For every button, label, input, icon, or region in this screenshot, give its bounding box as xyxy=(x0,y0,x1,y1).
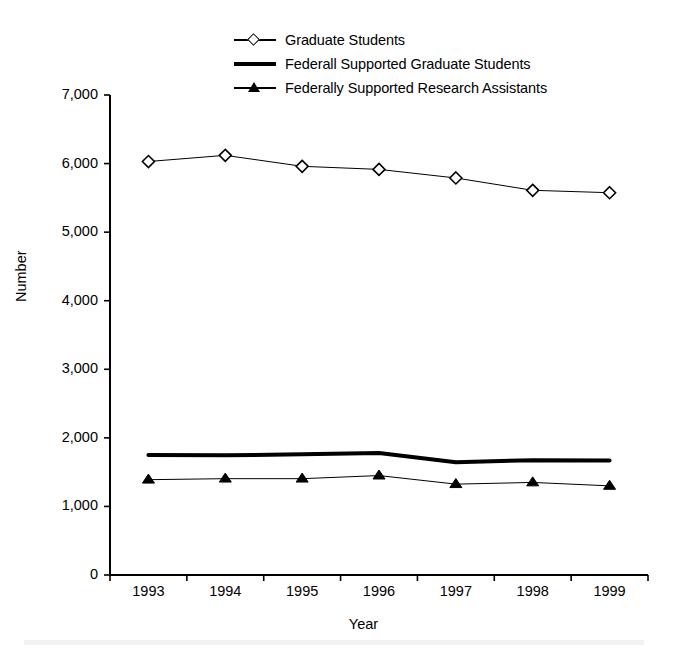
series-line-1 xyxy=(148,453,609,462)
data-point-open-diamond xyxy=(296,160,308,172)
data-point-filled-triangle xyxy=(142,474,154,483)
data-point-open-diamond xyxy=(142,156,154,168)
line-chart: Graduate Students Federall Supported Gra… xyxy=(0,0,673,652)
data-point-open-diamond xyxy=(604,187,616,199)
data-point-open-diamond xyxy=(527,184,539,196)
data-point-open-diamond xyxy=(450,172,462,184)
data-point-filled-triangle xyxy=(450,479,462,488)
scan-artifact xyxy=(24,640,644,645)
data-point-filled-triangle xyxy=(604,480,616,489)
plot-area xyxy=(0,0,673,652)
data-point-open-diamond xyxy=(373,163,385,175)
data-point-filled-triangle xyxy=(373,470,385,479)
data-point-filled-triangle xyxy=(527,477,539,486)
data-point-filled-triangle xyxy=(219,473,231,482)
data-point-open-diamond xyxy=(219,149,231,161)
data-point-filled-triangle xyxy=(296,473,308,482)
